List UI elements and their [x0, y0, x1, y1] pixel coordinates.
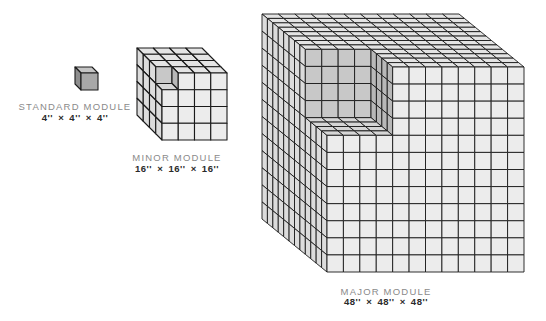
standard-module-name: STANDARD MODULE	[0, 101, 155, 112]
standard-module-dimensions: 4'' × 4'' × 4''	[0, 112, 155, 123]
standard-module-cube	[75, 67, 98, 90]
major-module-dimensions: 48'' × 48'' × 48''	[306, 296, 466, 307]
module-diagram	[0, 0, 546, 321]
major-module-cube	[262, 14, 524, 272]
minor-module-name: MINOR MODULE	[97, 152, 257, 163]
minor-module-label: MINOR MODULE 16'' × 16'' × 16''	[97, 152, 257, 174]
standard-module-label: STANDARD MODULE 4'' × 4'' × 4''	[0, 101, 155, 123]
major-module-label: MAJOR MODULE 48'' × 48'' × 48''	[306, 286, 466, 307]
minor-module-dimensions: 16'' × 16'' × 16''	[97, 163, 257, 174]
minor-module-cube	[137, 48, 227, 140]
